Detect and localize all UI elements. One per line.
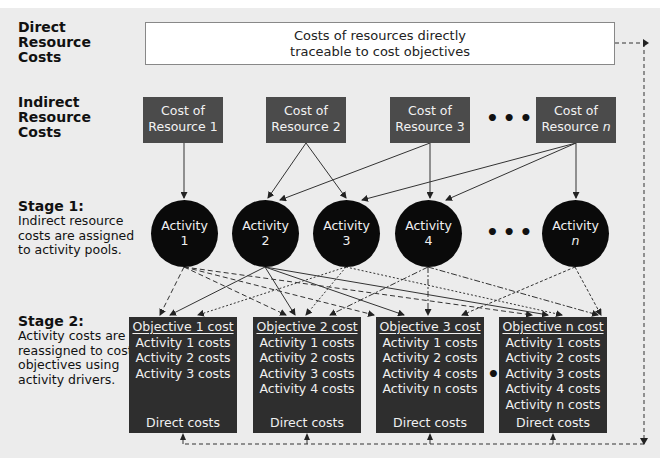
label-line: Indirect: [18, 95, 91, 110]
stage-1-desc-line: to activity pools.: [18, 243, 134, 258]
objective-item: Activity 1 costs: [129, 335, 237, 351]
resource-label-text: Resource: [541, 119, 598, 134]
resource-3-box: Cost of Resource 3: [390, 97, 470, 143]
resource-ellipsis: •••: [486, 106, 536, 130]
objective-item: Activity 4 costs: [376, 366, 484, 382]
activity-label: Activity: [232, 218, 299, 233]
objective-item: Activity n costs: [376, 381, 484, 397]
activity-label: Activity: [395, 218, 462, 233]
label-line: Costs: [18, 125, 91, 140]
resource-label: Cost of: [143, 103, 223, 119]
resource-1-box: Cost of Resource 1: [143, 97, 223, 143]
stage-1-desc-line: Indirect resource: [18, 214, 134, 229]
direct-costs-line: Costs of resources directly: [146, 28, 614, 44]
objective-item: Activity 2 costs: [376, 350, 484, 366]
stage-2-desc-line: Activity costs are: [18, 329, 133, 344]
objective-direct-costs: Direct costs: [129, 415, 237, 431]
objective-item: Activity 2 costs: [253, 350, 361, 366]
activity-n-circle: Activity n: [542, 200, 609, 267]
resource-label: Resource 3: [390, 119, 470, 135]
resource-label: Cost of: [266, 103, 346, 119]
label-line: Resource: [18, 35, 91, 50]
objective-item: Activity 3 costs: [253, 366, 361, 382]
direct-costs-line: traceable to cost objectives: [146, 44, 614, 60]
activity-1-circle: Activity 1: [151, 200, 218, 267]
resource-label: Resource 1: [143, 119, 223, 135]
resource-n-box: Cost of Resource n: [536, 97, 616, 143]
objective-item: Activity 3 costs: [129, 366, 237, 382]
objective-title: Objective 2 cost: [253, 319, 361, 335]
activity-index: 3: [313, 233, 380, 248]
objective-item: Activity 1 costs: [376, 335, 484, 351]
activity-index: 1: [151, 233, 218, 248]
objective-1-box: Objective 1 cost Activity 1 costs Activi…: [129, 317, 237, 433]
resource-label: Cost of: [390, 103, 470, 119]
objective-item: Activity 4 costs: [499, 381, 607, 397]
objective-item: Activity 1 costs: [253, 335, 361, 351]
label-line: Direct: [18, 20, 91, 35]
objective-3-box: Objective 3 cost Activity 1 costs Activi…: [376, 317, 484, 433]
objective-item: Activity n costs: [499, 397, 607, 413]
stage-1-desc-line: costs are assigned: [18, 229, 134, 244]
resource-label: Cost of: [536, 103, 616, 119]
activity-3-circle: Activity 3: [313, 200, 380, 267]
stage-2-desc-line: objectives using: [18, 358, 133, 373]
indirect-resource-costs-label: Indirect Resource Costs: [18, 95, 91, 140]
stage-2-desc-line: reassigned to cost: [18, 344, 133, 359]
objective-direct-costs: Direct costs: [376, 415, 484, 431]
stage-1-title: Stage 1:: [18, 199, 134, 214]
objective-2-box: Objective 2 cost Activity 1 costs Activi…: [253, 317, 361, 433]
stage-2-desc-line: activity drivers.: [18, 373, 133, 388]
activity-index: 2: [232, 233, 299, 248]
direct-resource-costs-label: Direct Resource Costs: [18, 20, 91, 65]
activity-label: Activity: [151, 218, 218, 233]
resource-label: Resource n: [536, 119, 616, 135]
label-line: Resource: [18, 110, 91, 125]
objective-item: Activity 4 costs: [253, 381, 361, 397]
objective-item: Activity 1 costs: [499, 335, 607, 351]
stage-2-title: Stage 2:: [18, 314, 133, 329]
stage-1-label: Stage 1: Indirect resource costs are ass…: [18, 199, 134, 258]
objective-title: Objective n cost: [499, 319, 607, 335]
objective-n-box: Objective n cost Activity 1 costs Activi…: [499, 317, 607, 433]
objective-item: Activity 3 costs: [499, 366, 607, 382]
objective-title: Objective 3 cost: [376, 319, 484, 335]
activity-label: Activity: [313, 218, 380, 233]
resource-n-index: n: [603, 119, 611, 134]
objective-direct-costs: Direct costs: [499, 415, 607, 431]
resource-2-box: Cost of Resource 2: [266, 97, 346, 143]
resource-label: Resource 2: [266, 119, 346, 135]
activity-ellipsis: •••: [486, 220, 536, 244]
activity-index: 4: [395, 233, 462, 248]
activity-4-circle: Activity 4: [395, 200, 462, 267]
label-line: Costs: [18, 50, 91, 65]
direct-costs-box: Costs of resources directly traceable to…: [145, 22, 615, 65]
activity-index: n: [572, 233, 580, 248]
stage-2-label: Stage 2: Activity costs are reassigned t…: [18, 314, 133, 387]
objective-direct-costs: Direct costs: [253, 415, 361, 431]
activity-2-circle: Activity 2: [232, 200, 299, 267]
objective-item: Activity 2 costs: [499, 350, 607, 366]
objective-title: Objective 1 cost: [129, 319, 237, 335]
activity-label: Activity: [542, 218, 609, 233]
objective-item: Activity 2 costs: [129, 350, 237, 366]
